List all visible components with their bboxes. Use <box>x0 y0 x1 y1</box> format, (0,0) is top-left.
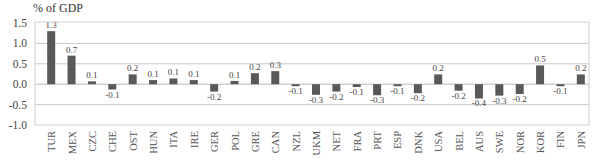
category-label: NZL <box>291 131 302 151</box>
category-label: KOR <box>535 131 546 153</box>
data-label: 0.1 <box>168 67 179 77</box>
data-label: -0.2 <box>207 92 221 102</box>
category-label: CZC <box>87 131 98 151</box>
bar-chart: 1.51.00.50.0-0.5-1.0 1.30.70.1-0.10.20.1… <box>0 0 594 163</box>
data-label: -0.3 <box>370 95 385 105</box>
x-axis-categories: TURMEXCZCCHEOSTHUNITAIREGERPOLGRECANNZLU… <box>46 130 587 155</box>
data-label: 0.1 <box>188 69 199 79</box>
bar <box>577 74 585 84</box>
data-label: -0.1 <box>553 86 567 96</box>
data-label: 0.3 <box>270 60 282 70</box>
category-label: GER <box>209 131 220 152</box>
y-tick-label: 1.5 <box>13 17 28 29</box>
y-tick-label: 1.0 <box>13 37 28 49</box>
bar <box>434 74 442 84</box>
data-label: 0.1 <box>147 69 158 79</box>
bar <box>231 81 239 84</box>
category-label: SWE <box>494 131 505 153</box>
category-label: OST <box>128 130 139 150</box>
data-label: 0.2 <box>575 63 586 73</box>
category-label: AUS <box>474 131 485 152</box>
category-label: MEX <box>67 131 78 155</box>
plot-frame <box>35 22 589 125</box>
data-label: -0.2 <box>451 91 465 101</box>
bar <box>536 65 544 84</box>
data-label: -0.3 <box>492 96 507 106</box>
category-label: DNK <box>413 131 424 154</box>
data-label: -0.2 <box>513 94 527 104</box>
category-label: IRE <box>189 131 200 148</box>
category-label: USA <box>433 131 444 152</box>
bar <box>47 31 55 84</box>
data-label: 0.1 <box>86 70 97 80</box>
y-tick-label: 0.0 <box>13 78 28 90</box>
bar <box>129 74 137 84</box>
category-label: GRE <box>250 131 261 152</box>
data-label: -0.4 <box>472 98 487 108</box>
bar <box>210 84 218 91</box>
bar <box>332 84 340 91</box>
category-label: CAN <box>270 131 281 154</box>
category-label: NOR <box>515 131 526 153</box>
category-label: HUN <box>148 131 159 154</box>
data-label: -0.1 <box>390 86 404 96</box>
data-label: 0.2 <box>127 63 138 73</box>
data-label: -0.2 <box>411 93 425 103</box>
data-label: 0.7 <box>66 45 78 55</box>
data-label: -0.1 <box>350 87 364 97</box>
data-label: 0.2 <box>433 63 444 73</box>
data-label: -0.1 <box>105 90 119 100</box>
data-label: -0.2 <box>329 92 343 102</box>
data-label: 0.5 <box>534 54 546 64</box>
category-label: JPN <box>576 131 587 149</box>
data-labels: 1.30.70.1-0.10.20.10.10.1-0.20.10.20.3-0… <box>46 20 587 108</box>
y-tick-label: -0.5 <box>9 99 27 111</box>
category-label: ESP <box>392 131 403 149</box>
bar <box>414 84 422 93</box>
category-label: FIN <box>555 131 566 148</box>
category-label: POL <box>230 131 241 151</box>
bar <box>169 78 177 84</box>
bar <box>88 81 96 84</box>
bar <box>271 71 279 84</box>
data-label: 0.2 <box>249 62 260 72</box>
bar <box>373 84 381 95</box>
category-label: PRT <box>372 130 383 149</box>
y-tick-label: 0.5 <box>13 58 28 70</box>
category-label: TUR <box>46 131 57 152</box>
category-label: ITA <box>168 131 179 148</box>
bar <box>475 84 483 98</box>
bar <box>251 73 259 84</box>
bar <box>190 80 198 84</box>
data-label: 0.1 <box>229 70 240 80</box>
y-axis-ticks: 1.51.00.50.0-0.5-1.0 <box>9 17 27 131</box>
bar <box>68 56 76 85</box>
bar <box>312 84 320 95</box>
bar <box>149 80 157 84</box>
category-label: FRA <box>352 131 363 152</box>
data-label: -0.1 <box>289 86 303 96</box>
bar <box>516 84 524 94</box>
category-label: BEL <box>454 131 465 151</box>
category-label: NET <box>331 130 342 151</box>
data-label: -0.3 <box>309 95 324 105</box>
category-label: CHE <box>107 131 118 152</box>
category-label: UKM <box>311 130 322 155</box>
bar <box>495 84 503 95</box>
y-tick-label: -1.0 <box>9 119 27 131</box>
